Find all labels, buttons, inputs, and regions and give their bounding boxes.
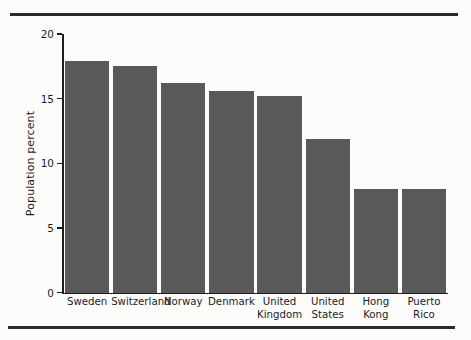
- y-tick-mark: [57, 163, 62, 165]
- bar[interactable]: [65, 61, 109, 292]
- bar-slot: [161, 34, 205, 293]
- y-tick-label: 0: [14, 288, 54, 299]
- bar-slot: [402, 34, 446, 293]
- x-tick-label-line: Kong: [352, 309, 400, 322]
- x-tick-label-line: States: [304, 309, 352, 322]
- bar[interactable]: [113, 66, 157, 292]
- bar[interactable]: [161, 83, 205, 292]
- x-tick-label-line: Hong: [352, 296, 400, 309]
- bar[interactable]: [209, 91, 253, 293]
- bar[interactable]: [257, 96, 301, 293]
- y-tick-mark: [57, 227, 62, 229]
- bar-series: [63, 34, 448, 293]
- x-tick-label-line: United: [256, 296, 304, 309]
- y-tick-mark: [57, 33, 62, 35]
- x-tick-label-line: Kingdom: [256, 309, 304, 322]
- x-axis-line: [62, 293, 448, 295]
- x-tick-label-line: Denmark: [207, 296, 255, 309]
- bar-slot: [306, 34, 350, 293]
- bar-slot: [65, 34, 109, 293]
- x-tick-label: Norway: [159, 296, 207, 309]
- y-tick-mark: [57, 292, 62, 294]
- x-tick-label: UnitedKingdom: [256, 296, 304, 321]
- x-tick-label-line: Rico: [400, 309, 448, 322]
- y-tick-label: 10: [14, 158, 54, 169]
- x-tick-label-line: Sweden: [63, 296, 111, 309]
- x-tick-label-line: Puerto: [400, 296, 448, 309]
- y-tick-label: 20: [14, 29, 54, 40]
- bar-slot: [113, 34, 157, 293]
- bar[interactable]: [354, 189, 398, 292]
- x-tick-label: PuertoRico: [400, 296, 448, 321]
- y-tick-label: 5: [14, 223, 54, 234]
- bar-slot: [209, 34, 253, 293]
- x-tick-label: HongKong: [352, 296, 400, 321]
- y-tick-label: 15: [14, 94, 54, 105]
- bar[interactable]: [306, 139, 350, 293]
- y-tick-mark: [57, 98, 62, 100]
- bar-slot: [257, 34, 301, 293]
- bar-slot: [354, 34, 398, 293]
- x-tick-label: Denmark: [207, 296, 255, 309]
- x-tick-label: UnitedStates: [304, 296, 352, 321]
- x-tick-label-line: Norway: [159, 296, 207, 309]
- bar[interactable]: [402, 189, 446, 292]
- x-tick-label: Sweden: [63, 296, 111, 309]
- figure-container: Population percent 05101520 SwedenSwitze…: [0, 0, 471, 340]
- x-tick-label: Switzerland: [111, 296, 159, 309]
- bar-chart: Population percent 05101520 SwedenSwitze…: [0, 0, 471, 340]
- x-tick-label-line: Switzerland: [111, 296, 159, 309]
- x-tick-label-line: United: [304, 296, 352, 309]
